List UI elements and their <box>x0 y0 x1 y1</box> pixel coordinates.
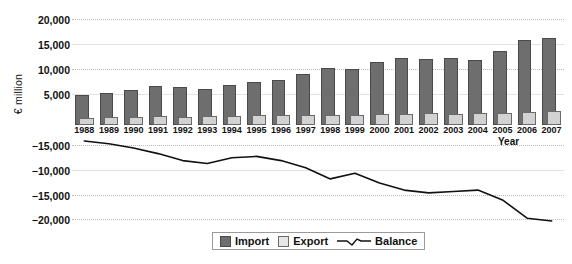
bar-slot <box>539 14 564 125</box>
legend-label-export: Export <box>293 235 328 247</box>
legend-item-export[interactable]: Export <box>278 235 328 247</box>
legend-item-balance[interactable]: Balance <box>337 235 417 247</box>
bar-slot <box>318 14 343 125</box>
bar-slot <box>269 14 294 125</box>
legend-label-balance: Balance <box>375 235 417 247</box>
chart-legend: Import Export Balance <box>212 232 425 250</box>
bar-slot <box>170 14 195 125</box>
export-bar[interactable] <box>202 116 216 125</box>
legend-item-import[interactable]: Import <box>220 235 269 247</box>
export-bar[interactable] <box>178 117 192 126</box>
export-bar[interactable] <box>497 113 511 125</box>
export-bar[interactable] <box>448 114 462 125</box>
export-bar[interactable] <box>79 118 93 126</box>
import-swatch-icon <box>220 236 231 247</box>
export-swatch-icon <box>278 236 289 247</box>
y-tick-20000: 20,000 <box>6 14 70 26</box>
bar-slot <box>97 14 122 125</box>
export-bar[interactable] <box>547 111 561 126</box>
bar-slot <box>441 14 466 125</box>
y-tick-neg-10000: −10,000 <box>6 165 70 177</box>
bar-slot <box>343 14 368 125</box>
bar-slot <box>392 14 417 125</box>
y-tick-5000: 5,000 <box>6 89 70 101</box>
bar-slot <box>121 14 146 125</box>
bar-slot <box>195 14 220 125</box>
bar-plot-area <box>72 14 564 125</box>
bar-group <box>72 14 564 125</box>
y-tick-15000: 15,000 <box>6 39 70 51</box>
y-axis-tick-labels: 20,000 15,000 10,000 5,000 −15,000 −10,0… <box>0 0 70 264</box>
bar-slot <box>466 14 491 125</box>
balance-line-icon <box>337 236 371 247</box>
y-tick-neg-20000: −20,000 <box>6 214 70 226</box>
bar-slot <box>72 14 97 125</box>
bar-slot <box>293 14 318 125</box>
export-bar[interactable] <box>522 112 536 125</box>
export-bar[interactable] <box>375 114 389 125</box>
legend-label-import: Import <box>235 235 269 247</box>
y-tick-neg-15000-b: −15,000 <box>6 190 70 202</box>
bar-slot <box>367 14 392 125</box>
bar-slot <box>490 14 515 125</box>
bar-slot <box>244 14 269 125</box>
balance-line-series <box>72 137 564 223</box>
export-bar[interactable] <box>424 113 438 125</box>
y-tick-neg-15000-a: −15,000 <box>6 140 70 152</box>
bar-slot <box>146 14 171 125</box>
export-bar[interactable] <box>104 117 118 125</box>
bar-slot <box>416 14 441 125</box>
export-bar[interactable] <box>301 115 315 125</box>
export-bar[interactable] <box>399 114 413 125</box>
export-bar[interactable] <box>276 115 290 125</box>
export-bar[interactable] <box>325 115 339 126</box>
export-bar[interactable] <box>129 117 143 126</box>
export-bar[interactable] <box>252 115 266 125</box>
bar-slot <box>515 14 540 125</box>
y-tick-10000: 10,000 <box>6 64 70 76</box>
bar-slot <box>220 14 245 125</box>
export-bar[interactable] <box>227 116 241 126</box>
export-bar[interactable] <box>473 113 487 126</box>
balance-plot-area <box>72 137 564 223</box>
export-bar[interactable] <box>153 116 167 125</box>
chart-container: € million 20,000 15,000 10,000 5,000 −15… <box>0 0 572 264</box>
export-bar[interactable] <box>350 115 364 126</box>
